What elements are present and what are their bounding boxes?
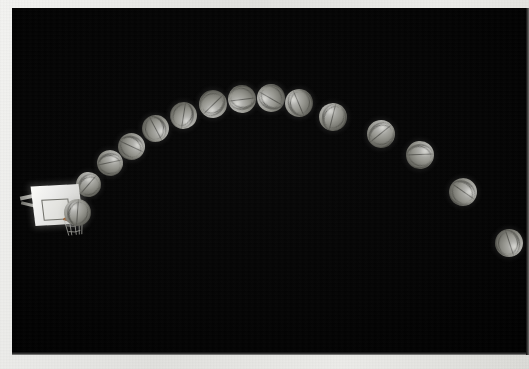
ball-highlight — [420, 146, 429, 156]
basketball-10 — [280, 84, 318, 122]
photo-exposure-area — [12, 8, 528, 355]
basketball-15 — [491, 225, 527, 261]
basketball-7 — [193, 84, 233, 124]
basketball-6 — [168, 100, 197, 129]
basketball-8 — [226, 83, 259, 116]
basketball-hoop — [20, 173, 106, 251]
basketball-14 — [444, 173, 482, 211]
photograph-frame — [0, 0, 529, 369]
basketball-9 — [252, 79, 289, 116]
basketball-13 — [405, 140, 436, 171]
basketball-at-hoop — [64, 199, 91, 226]
exposure-bottom-edge — [12, 352, 528, 355]
basketball-12 — [361, 114, 401, 154]
ball-highlight — [181, 116, 191, 125]
basketball-11 — [317, 101, 349, 133]
